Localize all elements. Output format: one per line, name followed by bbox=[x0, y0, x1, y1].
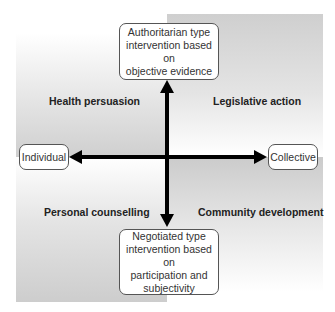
box-individual: Individual bbox=[19, 144, 69, 170]
arrow-right-icon bbox=[254, 150, 267, 164]
box-individual-text: Individual bbox=[22, 151, 66, 164]
arrow-left-icon bbox=[69, 150, 82, 164]
box-authoritarian: Authoritarian type intervention based on… bbox=[119, 23, 219, 80]
label-health-persuasion: Health persuasion bbox=[49, 95, 140, 107]
box-collective-text: Collective bbox=[270, 151, 316, 164]
box-authoritarian-text: Authoritarian type intervention based on… bbox=[120, 26, 218, 78]
box-negotiated-text: Negotiated type intervention based on pa… bbox=[120, 230, 218, 295]
box-collective: Collective bbox=[268, 144, 318, 170]
arrow-down-icon bbox=[160, 214, 174, 227]
label-personal-counselling: Personal counselling bbox=[44, 206, 150, 218]
arrow-up-icon bbox=[160, 80, 174, 93]
label-community-development: Community development bbox=[198, 206, 323, 218]
horizontal-axis bbox=[78, 155, 258, 159]
vertical-axis bbox=[165, 90, 169, 218]
label-legislative-action: Legislative action bbox=[213, 95, 301, 107]
box-negotiated: Negotiated type intervention based on pa… bbox=[119, 229, 219, 295]
